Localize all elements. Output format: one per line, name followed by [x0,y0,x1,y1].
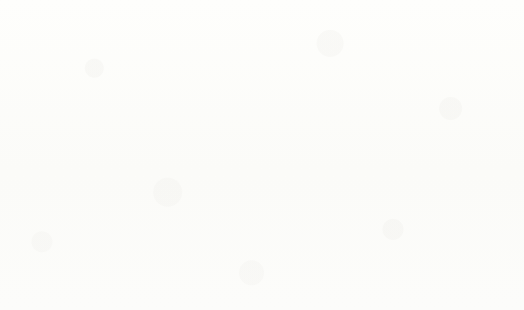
y-axis-tick [64,124,73,126]
x-axis-tick [158,259,160,268]
category-label-u-s: U.S. [73,268,159,291]
y-axis-tick [64,224,73,226]
y-axis-tick [64,58,73,60]
bar-u-k [180,61,225,258]
bar-chart-figure: 00.511.522.533.5 U.S.U.K.GermanyFranceJa… [0,0,524,310]
category-label-u-k: U.K. [159,268,245,291]
bar-japan [438,78,483,258]
category-label-germany: Germany [245,268,331,291]
y-axis-tick [64,158,73,160]
bar-u-s [94,59,139,258]
y-axis-tick [64,257,73,259]
category-label-france: France [332,268,418,291]
category-label-japan: Japan [418,268,504,291]
y-axis-tick-label: 3 [466,48,524,69]
y-axis-tick [64,91,73,93]
y-axis-tick [64,191,73,193]
x-axis-tick [417,259,419,268]
plot-area: 00.511.522.533.5 U.S.U.K.GermanyFranceJa… [0,0,524,310]
y-axis-tick-label: 3.5 [466,15,524,36]
bar-germany [266,162,311,258]
bar-france [352,132,397,258]
y-axis-tick [64,25,73,27]
